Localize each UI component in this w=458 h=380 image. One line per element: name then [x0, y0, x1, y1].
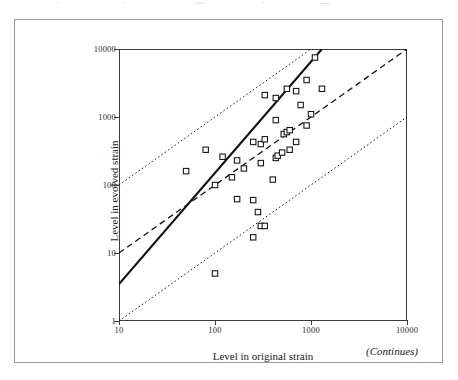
data-point: [293, 88, 298, 93]
data-point: [284, 86, 289, 91]
page-top-bleed-text: · · — · —: [0, 0, 458, 14]
data-point: [258, 160, 263, 165]
data-point: [293, 139, 298, 144]
data-point: [255, 209, 260, 214]
y-tick-label: 100: [103, 180, 116, 190]
data-point: [287, 127, 292, 132]
x-tick-label: 100: [208, 325, 221, 335]
data-point: [262, 137, 267, 142]
x-tick-label: 1000: [302, 325, 320, 335]
bleed-fragment: ·: [262, 0, 265, 7]
data-point: [241, 166, 246, 171]
data-point: [298, 102, 303, 107]
lower-band-10x: [119, 117, 407, 321]
continues-note: (Continues): [366, 345, 418, 357]
data-point: [234, 196, 239, 201]
data-point: [319, 86, 324, 91]
data-point: [308, 111, 313, 116]
bleed-fragment: —: [320, 0, 329, 7]
plot-area: 110100100010000 10100100010000: [119, 49, 407, 321]
scatter-plot-canvas: [119, 49, 407, 321]
data-point: [262, 92, 267, 97]
data-point: [251, 139, 256, 144]
figure-frame: Level in evolved strain Level in origina…: [14, 19, 443, 363]
data-point: [203, 147, 208, 152]
y-tick-label: 1000: [98, 112, 116, 122]
data-point: [220, 154, 225, 159]
data-point: [304, 123, 309, 128]
data-point: [234, 158, 239, 163]
upper-band-10x: [119, 49, 311, 185]
data-point: [287, 147, 292, 152]
bleed-fragment: ·: [56, 0, 59, 7]
identity-line: [119, 49, 407, 253]
data-point: [251, 235, 256, 240]
data-point: [183, 168, 188, 173]
data-point: [212, 271, 217, 276]
bleed-fragment: —: [196, 0, 205, 7]
x-tick-label: 10000: [396, 325, 418, 335]
data-point: [273, 95, 278, 100]
x-tick-label: 10: [115, 325, 124, 335]
y-tick-label: 10: [107, 248, 116, 258]
x-axis-title: Level in original strain: [119, 350, 407, 362]
reference-lines: [119, 49, 407, 321]
data-point: [251, 197, 256, 202]
data-point: [270, 177, 275, 182]
data-point-markers: [183, 55, 324, 276]
data-point: [212, 182, 217, 187]
bleed-fragment: ·: [122, 0, 125, 7]
data-point: [262, 223, 267, 228]
data-point: [312, 55, 317, 60]
data-point: [273, 117, 278, 122]
y-tick-label: 10000: [94, 44, 116, 54]
data-point: [279, 150, 284, 155]
y-axis-title: Level in evolved strain: [108, 140, 120, 241]
data-point: [304, 77, 309, 82]
data-point: [229, 175, 234, 180]
